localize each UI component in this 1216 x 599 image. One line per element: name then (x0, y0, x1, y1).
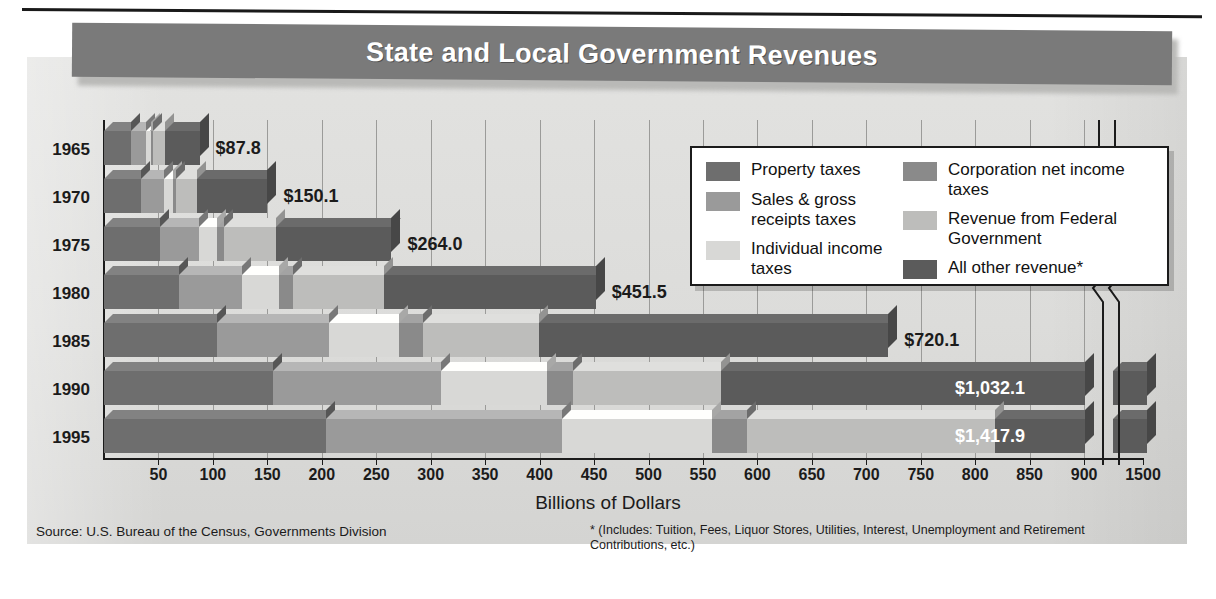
bar-segment-side (1147, 353, 1156, 396)
top-rule (22, 8, 1202, 18)
bar-segment (539, 323, 888, 357)
legend-label: Revenue from Federal Government (948, 209, 1153, 249)
title-banner: State and Local Government Revenues (72, 23, 1172, 86)
bar-segment (276, 227, 392, 261)
bar-segment (423, 323, 538, 357)
legend-item: Sales & gross receipts taxes (706, 190, 903, 230)
x-tick-label: 750 (898, 466, 944, 484)
bar-segment-side (391, 209, 400, 252)
x-tick (1030, 458, 1031, 465)
legend-label: Property taxes (751, 160, 861, 180)
bar-segment (1113, 371, 1147, 405)
legend-label: All other revenue* (948, 258, 1083, 278)
bar-segment (547, 371, 573, 405)
bar-segment (721, 371, 1085, 405)
bar-segment-top (562, 410, 721, 419)
x-tick (757, 458, 758, 465)
bar-segment-side (596, 257, 605, 300)
bar-segment-top (197, 170, 276, 179)
x-tick (1143, 458, 1144, 465)
page-title: State and Local Government Revenues (366, 36, 878, 71)
bar-segment-top (276, 218, 401, 227)
x-tick (376, 458, 377, 465)
bar-segment (104, 131, 131, 165)
x-axis-line (104, 458, 1144, 460)
bar-segment (273, 371, 441, 405)
footnote: * (Includes: Tuition, Fees, Liquor Store… (590, 523, 1135, 553)
legend-swatch-individual-income-taxes (706, 241, 740, 260)
x-axis-title: Billions of Dollars (0, 492, 1216, 514)
legend-label: Corporation net income taxes (948, 160, 1153, 200)
bar-segment-top (217, 314, 338, 323)
x-tick (649, 458, 650, 465)
bar-segment (712, 419, 747, 453)
x-tick-label: 200 (299, 466, 345, 484)
bar-segment (160, 227, 199, 261)
x-tick-label: 900 (1061, 466, 1107, 484)
x-tick (213, 458, 214, 465)
bar-segment (242, 275, 279, 309)
bar-segment-top (721, 362, 1094, 371)
legend-swatch-corporation-net-income-taxes (903, 162, 937, 181)
chart-legend: Property taxes Sales & gross receipts ta… (690, 146, 1169, 286)
bar-segment (176, 179, 197, 213)
legend-label: Individual income taxes (751, 239, 903, 279)
source-note: Source: U.S. Bureau of the Census, Gover… (36, 524, 386, 539)
x-tick-label: 500 (626, 466, 672, 484)
x-tick (267, 458, 268, 465)
bar-segment (399, 323, 423, 357)
legend-column-left: Property taxes Sales & gross receipts ta… (706, 160, 903, 274)
bar-segment (217, 227, 224, 261)
bar-segment (141, 179, 164, 213)
x-tick-label: 650 (789, 466, 835, 484)
bar-segment-side (888, 305, 897, 348)
x-tick (540, 458, 541, 465)
x-tick-label: 100 (190, 466, 236, 484)
bar-segment-top (995, 410, 1094, 419)
bar-segment-top (441, 362, 556, 371)
bar-segment-top (329, 314, 409, 323)
x-tick-label: 300 (408, 466, 454, 484)
bar-segment (224, 227, 275, 261)
legend-item: All other revenue* (903, 258, 1153, 279)
bar-segment-top (539, 314, 897, 323)
bar-segment (326, 419, 562, 453)
bar-segment-top (104, 314, 226, 323)
bar-segment-top (104, 362, 282, 371)
legend-swatch-all-other-revenue (903, 260, 937, 279)
x-tick-label: 850 (1007, 466, 1053, 484)
bar-value-label: $1,417.9 (955, 426, 1025, 447)
bar-row: $720.1 (0, 314, 1216, 348)
x-tick-label: 600 (734, 466, 780, 484)
bar-segment-side (1085, 353, 1094, 396)
bar-segment-top (179, 266, 251, 275)
bar-value-label: $451.5 (612, 282, 667, 303)
bar-row: $1,417.9 (0, 410, 1216, 444)
legend-column-right: Corporation net income taxes Revenue fro… (903, 160, 1153, 274)
x-tick-label: 250 (353, 466, 399, 484)
legend-item: Revenue from Federal Government (903, 209, 1153, 249)
legend-swatch-revenue-from-federal-government (903, 211, 937, 230)
bar-segment-side (200, 113, 209, 156)
bar-value-label: $150.1 (283, 186, 338, 207)
bar-segment (131, 131, 146, 165)
bar-row: $1,032.1 (0, 362, 1216, 396)
x-tick-label: 1500 (1120, 466, 1166, 484)
bar-value-label: $1,032.1 (955, 378, 1025, 399)
bar-segment (179, 275, 242, 309)
bar-segment-top (423, 314, 547, 323)
x-tick-label: 400 (517, 466, 563, 484)
legend-item: Corporation net income taxes (903, 160, 1153, 200)
bar-segment-top (293, 266, 392, 275)
bar-segment-side (267, 161, 276, 204)
x-tick-label: 50 (135, 466, 181, 484)
x-tick (921, 458, 922, 465)
bar-segment (104, 179, 141, 213)
bar-segment (329, 323, 400, 357)
legend-item: Individual income taxes (706, 239, 903, 279)
bar-segment (104, 371, 273, 405)
legend-item: Property taxes (706, 160, 903, 181)
legend-swatch-sales-gross-receipts-taxes (706, 192, 740, 211)
x-tick (485, 458, 486, 465)
bar-segment (1113, 419, 1147, 453)
